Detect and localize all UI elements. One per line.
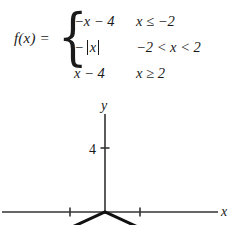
- abs-bar-left: [87, 40, 88, 55]
- y-tick-label: 4: [89, 142, 96, 157]
- piece-expression: −x − 4: [74, 13, 136, 30]
- piece-condition: x ≥ 2: [136, 65, 165, 82]
- function-label: f(x) =: [14, 30, 50, 47]
- piecewise-row: x − 4 x ≥ 2: [74, 60, 240, 86]
- piecewise-row: −x − 4 x ≤ −2: [74, 8, 240, 34]
- piecewise-row: −x −2 < x < 2: [74, 34, 240, 60]
- x-axis-label: x: [221, 204, 227, 220]
- absolute-value-group: x: [84, 39, 102, 56]
- piecewise-rows: −x − 4 x ≤ −2 −x −2 < x < 2 x − 4 x ≥ 2: [74, 8, 240, 86]
- piece-expression: x − 4: [74, 65, 136, 82]
- piece-expression: −x: [74, 39, 136, 56]
- piece-condition: x ≤ −2: [136, 13, 175, 30]
- piece-condition: −2 < x < 2: [136, 39, 201, 56]
- abs-bar-right: [98, 40, 99, 55]
- plot-svg: 4: [0, 96, 240, 225]
- coordinate-graph: 4 y x: [0, 96, 240, 225]
- figure-root: f(x) = { −x − 4 x ≤ −2 −x −2 < x < 2 x −…: [0, 0, 240, 225]
- piecewise-formula: f(x) = { −x − 4 x ≤ −2 −x −2 < x < 2 x −…: [0, 0, 240, 98]
- y-axis-label: y: [101, 98, 107, 114]
